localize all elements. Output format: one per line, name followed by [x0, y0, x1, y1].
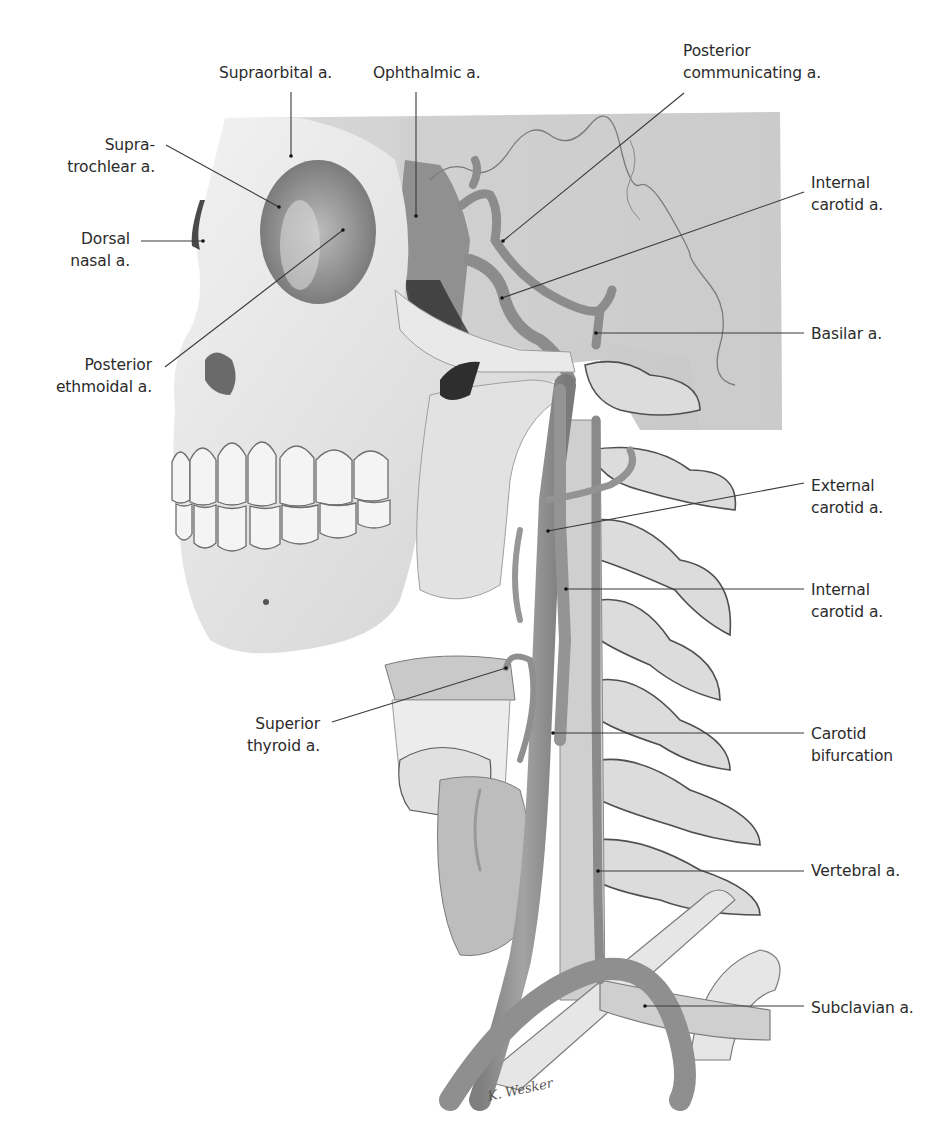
- label-dorsal-nasal: Dorsalnasal a.: [70, 228, 130, 272]
- label-line: ethmoidal a.: [56, 376, 152, 398]
- label-superior-thyroid: Superiorthyroid a.: [247, 713, 320, 757]
- label-internal-carotid-upper: Internalcarotid a.: [811, 172, 883, 216]
- leader-endpoint-supratrochlear: [277, 205, 281, 209]
- label-line: Basilar a.: [811, 323, 882, 345]
- label-line: Internal: [811, 579, 883, 601]
- label-line: trochlear a.: [67, 156, 155, 178]
- label-line: carotid a.: [811, 497, 883, 519]
- label-line: Subclavian a.: [811, 997, 914, 1019]
- leader-endpoint-superior-thyroid: [504, 666, 508, 670]
- anatomy-figure: Supraorbital a.Ophthalmic a.Posteriorcom…: [0, 0, 947, 1122]
- label-line: Posterior: [683, 40, 821, 62]
- label-line: Vertebral a.: [811, 860, 900, 882]
- label-external-carotid: Externalcarotid a.: [811, 475, 883, 519]
- label-carotid-bifurcation: Carotidbifurcation: [811, 723, 893, 767]
- label-line: Supra-: [67, 134, 155, 156]
- leader-endpoint-posterior-communicating: [501, 239, 505, 243]
- label-line: bifurcation: [811, 745, 893, 767]
- leader-endpoint-internal-carotid-lower: [564, 587, 568, 591]
- leader-endpoint-carotid-bifurcation: [551, 731, 555, 735]
- label-basilar: Basilar a.: [811, 323, 882, 345]
- label-line: nasal a.: [70, 250, 130, 272]
- label-line: Ophthalmic a.: [373, 62, 481, 84]
- label-line: communicating a.: [683, 62, 821, 84]
- larynx-and-thyroid: [385, 656, 533, 956]
- leader-endpoint-internal-carotid-upper: [500, 296, 504, 300]
- label-line: carotid a.: [811, 194, 883, 216]
- leader-endpoint-posterior-ethmoidal: [341, 228, 345, 232]
- label-line: Superior: [247, 713, 320, 735]
- label-line: thyroid a.: [247, 735, 320, 757]
- leader-endpoint-subclavian: [643, 1004, 647, 1008]
- leader-endpoint-dorsal-nasal: [201, 239, 205, 243]
- label-vertebral: Vertebral a.: [811, 860, 900, 882]
- label-supraorbital: Supraorbital a.: [219, 62, 332, 84]
- label-line: Dorsal: [70, 228, 130, 250]
- leader-endpoint-basilar: [594, 331, 598, 335]
- label-posterior-ethmoidal: Posteriorethmoidal a.: [56, 354, 152, 398]
- leader-endpoint-external-carotid: [546, 529, 550, 533]
- label-line: Posterior: [56, 354, 152, 376]
- label-ophthalmic: Ophthalmic a.: [373, 62, 481, 84]
- label-line: Supraorbital a.: [219, 62, 332, 84]
- label-line: Internal: [811, 172, 883, 194]
- label-line: External: [811, 475, 883, 497]
- label-subclavian: Subclavian a.: [811, 997, 914, 1019]
- leader-endpoint-supraorbital: [289, 154, 293, 158]
- label-posterior-communicating: Posteriorcommunicating a.: [683, 40, 821, 84]
- label-internal-carotid-lower: Internalcarotid a.: [811, 579, 883, 623]
- label-line: Carotid: [811, 723, 893, 745]
- leader-endpoint-vertebral: [596, 869, 600, 873]
- label-supratrochlear: Supra-trochlear a.: [67, 134, 155, 178]
- label-line: carotid a.: [811, 601, 883, 623]
- leader-endpoint-ophthalmic: [414, 214, 418, 218]
